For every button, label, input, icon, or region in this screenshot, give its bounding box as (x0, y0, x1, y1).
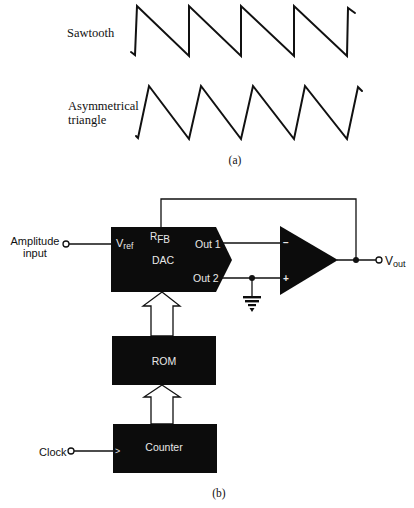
counter-to-rom-bus-arrow-icon (144, 385, 180, 424)
opamp-noninverting-input-label: + (283, 273, 289, 284)
asymmetrical-triangle-waveform (136, 86, 362, 139)
dac-out2-label: Out 2 (193, 272, 219, 284)
rom-to-dac-bus-arrow-icon (143, 292, 180, 336)
circuit-panel: Amplitude input Vref RFB DAC Out 1 Out 2… (11, 199, 406, 500)
vout-label: Vout (385, 254, 406, 269)
asym-triangle-label-line2: triangle (68, 113, 107, 127)
amplitude-input-terminal-icon (63, 241, 69, 247)
asym-triangle-label-line1: Asymmetrical (68, 99, 139, 113)
amplitude-input-label-line2: input (23, 247, 47, 259)
clock-input-label: Clock (39, 446, 67, 458)
clock-input-terminal-icon (68, 448, 74, 454)
opamp-inverting-input-label: − (283, 237, 289, 248)
rom-label: ROM (152, 355, 177, 367)
sawtooth-waveform (131, 6, 355, 56)
dac-name-label: DAC (152, 254, 175, 266)
counter-label: Counter (145, 441, 183, 453)
dac-out1-label: Out 1 (195, 238, 221, 250)
output-junction-dot (353, 257, 359, 263)
vout-terminal-icon (376, 257, 382, 263)
caption-a: (a) (229, 154, 242, 167)
caption-b: (b) (212, 487, 226, 500)
waveforms-panel: Sawtooth Asymmetrical triangle (a) (67, 6, 362, 167)
sawtooth-label: Sawtooth (67, 26, 115, 40)
ground-icon (243, 278, 261, 312)
dac-waveform-generator-figure: Sawtooth Asymmetrical triangle (a) Ampli… (0, 0, 414, 508)
clock-edge-marker-icon: > (115, 446, 120, 456)
amplitude-input-label-line1: Amplitude (11, 235, 60, 247)
